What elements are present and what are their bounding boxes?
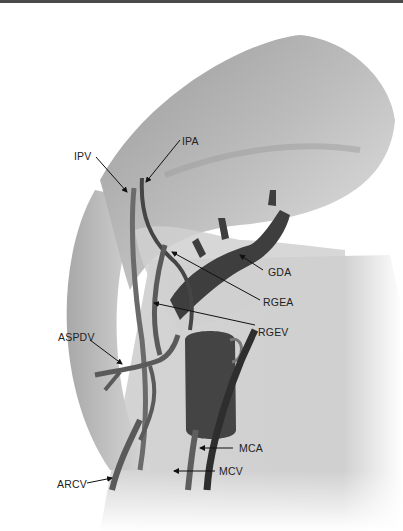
anatomy-illustration (0, 0, 403, 531)
label-gda: GDA (268, 266, 291, 278)
label-rgea: RGEA (263, 296, 294, 308)
label-mca: MCA (239, 442, 263, 454)
label-arcv: ARCV (57, 478, 87, 490)
label-rgev: RGEV (258, 326, 289, 338)
figure: IPV IPA GDA RGEA RGEV ASPDV MCA MCV ARCV (0, 0, 403, 531)
label-ipa: IPA (182, 135, 199, 147)
label-ipv: IPV (74, 150, 92, 162)
label-aspdv: ASPDV (58, 331, 95, 343)
label-mcv: MCV (219, 465, 243, 477)
